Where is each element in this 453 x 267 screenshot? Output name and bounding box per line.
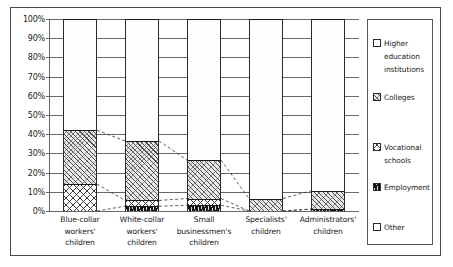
bar-4[interactable] — [249, 19, 283, 211]
legend-item-cross[interactable]: Vocational — [373, 142, 421, 154]
y-axis-line — [49, 19, 50, 211]
bar-segment[interactable] — [187, 19, 221, 160]
plot-area: 0%10%20%30%40%50%60%70%80%90%100% — [49, 19, 359, 211]
bar-5[interactable] — [311, 19, 345, 211]
legend-label: Colleges — [384, 92, 415, 104]
gridline — [49, 211, 359, 212]
legend-swatch-icon — [373, 183, 381, 191]
bar-segment[interactable] — [63, 130, 97, 184]
bar-segment[interactable] — [311, 191, 345, 209]
bar-segment[interactable] — [63, 184, 97, 211]
legend-label: Vocational — [384, 142, 421, 154]
x-axis-label-line: Administrators' — [291, 214, 365, 226]
y-axis-tick-label: 60% — [28, 91, 45, 100]
bar-2[interactable] — [125, 19, 159, 211]
x-axis-category-label: Administrators'children — [291, 214, 365, 237]
x-axis-labels: Blue-collarworkers'childrenWhite-collarw… — [49, 214, 359, 258]
connector-line — [159, 141, 187, 160]
y-axis-tick-label: 40% — [28, 130, 45, 139]
legend-swatch-icon — [373, 223, 381, 231]
bar-segment[interactable] — [187, 199, 221, 206]
bar-segment[interactable] — [125, 206, 159, 211]
legend-label-continuation: institutions — [384, 64, 424, 76]
bar-segment[interactable] — [125, 19, 159, 141]
bar-segment[interactable] — [63, 19, 97, 130]
legend-label: Higher — [384, 38, 408, 50]
bar-segment[interactable] — [249, 19, 283, 199]
legend-swatch-icon — [373, 143, 381, 151]
chart-legend: HighereducationinstitutionsCollegesVocat… — [367, 19, 433, 245]
legend-item-hatch[interactable]: Colleges — [373, 92, 415, 104]
y-axis-tick-label: 20% — [28, 168, 45, 177]
connector-line — [97, 130, 125, 141]
bar-segment[interactable] — [311, 19, 345, 191]
bar-segment[interactable] — [249, 199, 283, 211]
y-axis-tick-mark — [46, 211, 49, 212]
x-axis-label-line: children — [291, 226, 365, 238]
y-axis-tick-label: 10% — [28, 187, 45, 196]
y-axis-tick-label: 90% — [28, 34, 45, 43]
legend-item-white[interactable]: Other — [373, 222, 405, 234]
y-axis-tick-label: 70% — [28, 72, 45, 81]
legend-item-black[interactable]: Employment — [373, 182, 430, 194]
bar-segment[interactable] — [187, 205, 221, 211]
bar-segment[interactable] — [125, 141, 159, 201]
bar-segment[interactable] — [125, 200, 159, 206]
plot-canvas: 0%10%20%30%40%50%60%70%80%90%100% — [49, 19, 359, 211]
legend-swatch-icon — [373, 39, 381, 47]
bar-3[interactable] — [187, 19, 221, 211]
legend-label: Employment — [384, 182, 430, 194]
bar-1[interactable] — [63, 19, 97, 211]
legend-label: Other — [384, 222, 405, 234]
legend-label-continuation: education — [384, 51, 420, 63]
connector-line — [221, 199, 249, 211]
connector-line — [159, 199, 187, 201]
legend-swatch-icon — [373, 93, 381, 101]
x-axis-label-line: children — [167, 237, 241, 249]
bar-segment[interactable] — [311, 209, 345, 211]
legend-label-continuation: schools — [384, 155, 411, 167]
y-axis-tick-label: 80% — [28, 53, 45, 62]
y-axis-tick-label: 100% — [23, 15, 45, 24]
y-axis-tick-label: 50% — [28, 111, 45, 120]
connector-line — [159, 205, 187, 206]
y-axis-tick-label: 30% — [28, 149, 45, 158]
chart-frame: 0%10%20%30%40%50%60%70%80%90%100% Blue-c… — [10, 7, 441, 256]
legend-item-dots[interactable]: Higher — [373, 38, 408, 50]
bar-segment[interactable] — [187, 160, 221, 198]
